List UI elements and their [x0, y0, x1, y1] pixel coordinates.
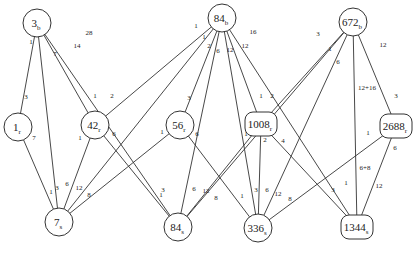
edge-label: 3 — [24, 93, 28, 101]
edge-label: 6 — [265, 186, 269, 194]
edge-label: 6 — [112, 130, 116, 138]
node-shape — [23, 9, 51, 37]
edge-label: 12 — [227, 46, 235, 54]
edge-label: 1 — [194, 22, 198, 30]
edge-label: 1 — [29, 38, 33, 46]
edge-label: 12 — [376, 182, 384, 190]
node-672b: 672b — [339, 8, 367, 36]
edge-label: 3 — [55, 184, 59, 192]
edge-label: 8 — [87, 191, 91, 199]
edge-1008r-1344s — [261, 124, 357, 227]
edge-labels-layer: 1373141281711612112236121231211616318611… — [24, 22, 398, 203]
edge-label: 1 — [78, 134, 82, 142]
node-1008r: 1008r — [245, 112, 277, 136]
node-56r: 56r — [166, 111, 194, 139]
node-1344s: 1344s — [341, 215, 373, 239]
edge-2688r-336s — [258, 126, 396, 228]
edge-label: 12 — [242, 42, 250, 50]
edge-label: 3 — [161, 186, 165, 194]
edge-3b-42r — [37, 23, 95, 125]
edge-label: 6 — [192, 185, 196, 193]
edge-label: 4 — [281, 137, 285, 145]
edge-label: 6 — [216, 47, 220, 55]
edge-label: 3 — [187, 94, 191, 102]
edge-42r-84s — [95, 125, 178, 227]
edge-label: 2 — [270, 92, 274, 100]
node-84s: 84s — [164, 213, 192, 241]
edge-label: 7 — [32, 134, 36, 142]
edge-label: 12 — [275, 190, 283, 198]
edge-label: 1 — [93, 92, 97, 100]
edge-label: 3 — [316, 30, 320, 38]
edge-label: 6 — [393, 144, 397, 152]
edge-label: 2 — [207, 42, 211, 50]
edge-label: 16 — [250, 28, 258, 36]
edge-label: 12+16 — [358, 84, 376, 92]
edge-label: 1 — [202, 33, 206, 41]
edge-label: 12 — [380, 41, 388, 49]
edge-label: 6+8 — [360, 164, 371, 172]
node-1r: 1r — [4, 113, 32, 141]
edge-label: 1 — [344, 179, 348, 187]
node-7s: 7s — [45, 208, 73, 236]
edge-84b-56r — [180, 18, 222, 125]
edge-672b-1344s — [353, 22, 357, 227]
edge-label: 2 — [263, 136, 267, 144]
edge-label: 3 — [254, 186, 258, 194]
edge-label: 1 — [160, 128, 164, 136]
edge-2688r-1344s — [357, 126, 396, 227]
edge-label: 2 — [110, 92, 114, 100]
edge-label: 7 — [53, 50, 57, 58]
node-84b: 84b — [208, 4, 236, 32]
edge-label: 12 — [76, 184, 84, 192]
edge-label: 1 — [240, 192, 244, 200]
edge-label: 6 — [336, 58, 340, 66]
edge-label: 8 — [288, 195, 292, 203]
edge-1008r-336s — [258, 124, 261, 228]
edge-1r-7s — [18, 127, 59, 222]
edge-672b-1008r — [261, 22, 353, 124]
edge-label: 14 — [74, 42, 82, 50]
node-42r: 42r — [81, 111, 109, 139]
node-336s: 336s — [244, 214, 272, 242]
edge-3b-1r — [18, 23, 37, 127]
edge-label: 1 — [328, 45, 332, 53]
edge-label: 8 — [214, 194, 218, 202]
edge-label: 1 — [259, 92, 263, 100]
edge-label: 1 — [366, 129, 370, 137]
node-3b: 3b — [23, 9, 51, 37]
edge-label: 12 — [203, 187, 211, 195]
edge-label: 3 — [331, 186, 335, 194]
edge-label: 1 — [49, 188, 53, 196]
incidence-graph-diagram: 1373141281711612112236121231211616318611… — [0, 0, 418, 256]
edge-label: 3 — [394, 92, 398, 100]
node-2688r: 2688r — [380, 114, 412, 138]
edge-672b-2688r — [353, 22, 396, 126]
edge-label: 6 — [195, 130, 199, 138]
edge-label: 6 — [65, 180, 69, 188]
edge-label: 28 — [86, 29, 94, 37]
